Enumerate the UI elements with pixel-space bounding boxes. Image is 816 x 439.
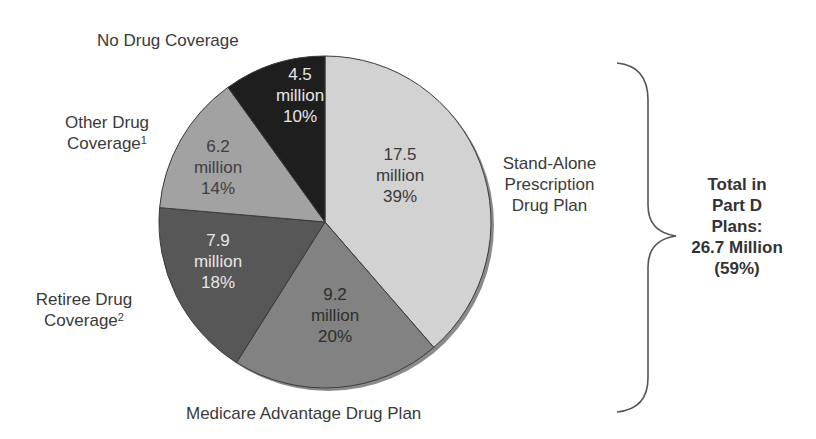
label-text: No Drug Coverage [97,31,239,50]
label-no-drug-coverage: No Drug Coverage [97,30,239,51]
label-other-drug-coverage: Other Drug Coverage1 [52,112,162,154]
label-text: Medicare Advantage Drug Plan [186,404,421,423]
label-stand-alone-pdp: Stand-Alone Prescription Drug Plan [487,153,612,216]
total-line: Plans: [672,216,802,237]
label-text: Retiree Drug [24,289,144,310]
footnote-marker: 2 [118,311,124,323]
part-d-total-annotation: Total in Part D Plans: 26.7 Million (59%… [672,174,802,279]
label-retiree-drug-coverage: Retiree Drug Coverage2 [24,289,144,331]
label-text: Coverage [44,311,118,330]
label-text: Prescription [487,174,612,195]
footnote-marker: 1 [141,134,147,146]
total-line: (59%) [672,258,802,279]
curly-brace [617,63,676,412]
total-line: Total in [672,174,802,195]
label-text: Drug Plan [487,195,612,216]
label-text: Coverage [67,134,141,153]
total-line: 26.7 Million [672,237,802,258]
total-line: Part D [672,195,802,216]
label-text: Other Drug [52,112,162,133]
label-text: Stand-Alone [487,153,612,174]
label-medicare-advantage: Medicare Advantage Drug Plan [186,403,421,424]
